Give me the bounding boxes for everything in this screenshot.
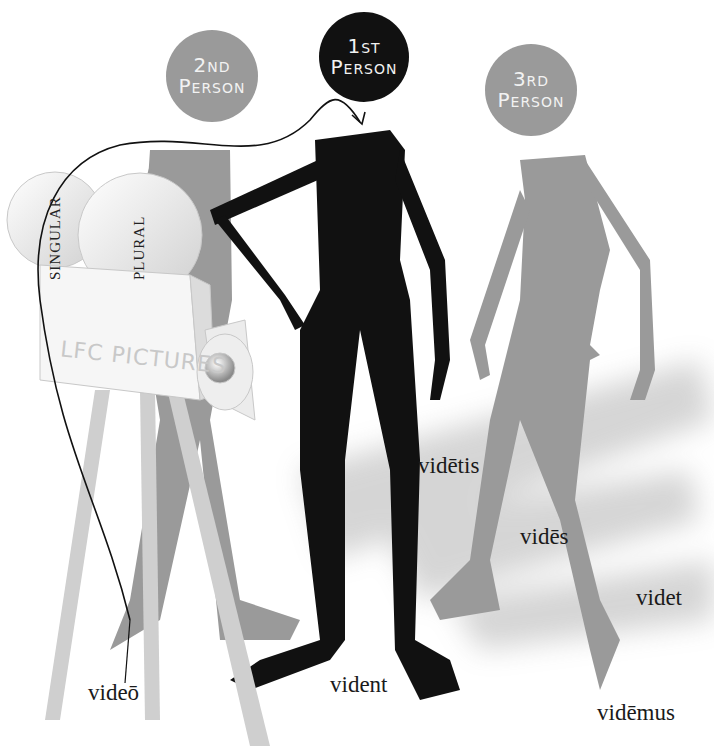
- camera-tripod: [45, 380, 270, 746]
- second-person-badge: 2nd Person: [166, 30, 258, 122]
- badge-line1: 1st: [347, 36, 380, 57]
- third-person-badge: 3rd Person: [485, 44, 577, 136]
- badge-line1: 2nd: [194, 55, 231, 76]
- illustration-art: [0, 0, 714, 746]
- form-videmus: vidēmus: [597, 700, 675, 726]
- form-vident: vident: [330, 672, 388, 698]
- badge-line2: Person: [497, 90, 564, 111]
- singular-label: SINGULAR: [47, 196, 64, 280]
- form-videt-1st-sing: videō: [88, 680, 139, 706]
- form-vides: vidēs: [520, 524, 569, 550]
- form-videt: videt: [636, 585, 682, 611]
- plural-label: PLURAL: [131, 216, 148, 280]
- badge-line1: 3rd: [513, 69, 549, 90]
- badge-line2: Person: [330, 57, 397, 78]
- verb-conjugation-illustration: 2nd Person 1st Person 3rd Person SINGULA…: [0, 0, 714, 746]
- first-person-badge: 1st Person: [319, 12, 409, 102]
- badge-line2: Person: [178, 76, 245, 97]
- form-videtis: vidētis: [418, 453, 479, 479]
